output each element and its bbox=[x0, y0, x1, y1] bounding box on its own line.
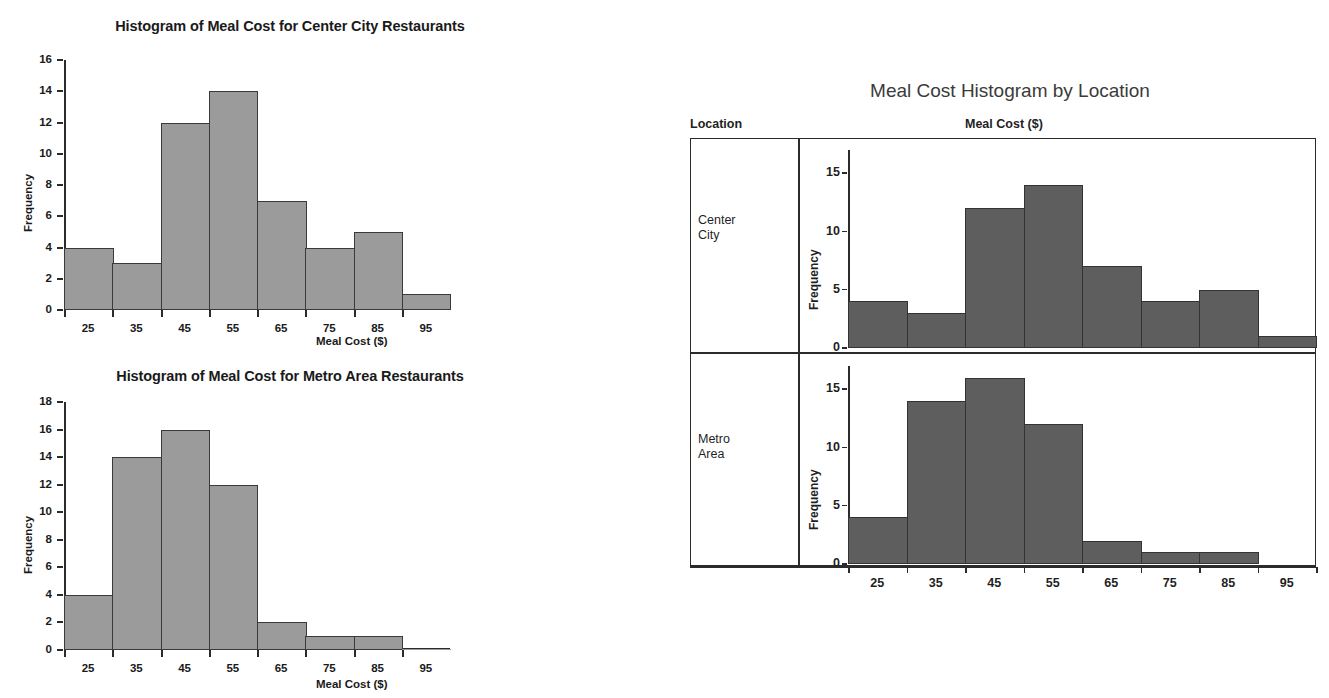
x-axis-tick bbox=[257, 650, 259, 657]
x-axis-tick bbox=[1024, 567, 1026, 573]
y-axis-tick-label: 0 bbox=[20, 643, 52, 655]
histogram-bar bbox=[209, 485, 259, 650]
histogram-bar bbox=[64, 248, 114, 311]
y-axis-tick bbox=[842, 563, 847, 565]
panel-plot-center-city bbox=[848, 150, 1316, 348]
chart-paneled-by-location: Meal Cost Histogram by Location Location… bbox=[690, 80, 1329, 610]
y-axis-tick-label: 0 bbox=[20, 303, 52, 315]
x-axis-tick bbox=[209, 650, 211, 657]
y-axis-tick-label: 4 bbox=[20, 588, 52, 600]
histogram-bar bbox=[354, 232, 404, 310]
x-axis-tick-label: 45 bbox=[974, 576, 1014, 590]
histogram-bar bbox=[161, 123, 211, 311]
x-axis-tick bbox=[161, 650, 163, 657]
y-axis-tick bbox=[842, 231, 847, 233]
x-axis-tick bbox=[402, 650, 404, 657]
y-axis-tick-label: 15 bbox=[810, 165, 840, 179]
x-axis-tick bbox=[354, 650, 356, 657]
x-axis-tick-label: 45 bbox=[165, 322, 205, 334]
plot-area bbox=[64, 402, 450, 650]
y-axis-tick bbox=[57, 456, 63, 458]
y-axis-tick bbox=[57, 401, 63, 403]
x-axis-tick-label: 95 bbox=[406, 662, 446, 674]
histogram-bar bbox=[1141, 301, 1201, 348]
histogram-bar bbox=[305, 248, 355, 311]
x-axis-tick-label: 95 bbox=[406, 322, 446, 334]
x-axis-tick-label: 75 bbox=[1150, 576, 1190, 590]
chart-center-city-simple: Histogram of Meal Cost for Center City R… bbox=[0, 10, 660, 355]
x-axis-tick bbox=[907, 567, 909, 573]
x-axis-tick bbox=[305, 310, 307, 317]
x-axis-tick bbox=[112, 650, 114, 657]
histogram-bar bbox=[1199, 290, 1259, 348]
x-axis-tick-label: 85 bbox=[358, 322, 398, 334]
y-axis-tick bbox=[57, 539, 63, 541]
histogram-bar bbox=[305, 636, 355, 650]
x-axis-tick bbox=[64, 310, 66, 317]
histogram-bar bbox=[1199, 552, 1259, 564]
y-axis-tick-label: 10 bbox=[810, 440, 840, 454]
x-axis-tick bbox=[1258, 567, 1260, 573]
x-axis-tick bbox=[112, 310, 114, 317]
histogram-bar bbox=[257, 201, 307, 310]
y-axis-tick bbox=[57, 511, 63, 513]
chart-metro-area-simple: Histogram of Meal Cost for Metro Area Re… bbox=[0, 360, 660, 698]
histogram-bar bbox=[907, 401, 967, 564]
y-axis-tick bbox=[842, 505, 847, 507]
y-axis-tick bbox=[57, 649, 63, 651]
y-axis-tick-label: 14 bbox=[20, 84, 52, 96]
y-axis-tick bbox=[57, 621, 63, 623]
histogram-bar bbox=[257, 622, 307, 650]
x-axis-tick bbox=[1316, 567, 1318, 573]
y-axis-tick bbox=[842, 172, 847, 174]
y-axis-tick bbox=[57, 484, 63, 486]
y-axis-tick-label: 2 bbox=[20, 615, 52, 627]
y-axis-tick-label: 16 bbox=[20, 423, 52, 435]
panel-row-label-center-city: Center City bbox=[698, 213, 736, 243]
y-axis-tick bbox=[842, 289, 847, 291]
y-axis-tick bbox=[57, 59, 63, 61]
histogram-bar bbox=[161, 430, 211, 650]
x-axis-line bbox=[690, 566, 1316, 568]
histogram-bar bbox=[907, 313, 967, 348]
x-axis-tick-label: 85 bbox=[1208, 576, 1248, 590]
y-axis-tick-label: 0 bbox=[810, 556, 840, 570]
histogram-bar bbox=[209, 91, 259, 310]
y-axis-tick-label: 16 bbox=[20, 53, 52, 65]
y-axis-tick-label: 10 bbox=[20, 147, 52, 159]
y-axis-tick bbox=[57, 90, 63, 92]
histogram-bar bbox=[402, 649, 452, 650]
x-axis-tick-label: 85 bbox=[358, 662, 398, 674]
panel-variable-label: Location bbox=[690, 117, 742, 131]
y-axis-tick-label: 5 bbox=[810, 498, 840, 512]
x-axis-tick-label: 65 bbox=[1091, 576, 1131, 590]
x-axis-tick bbox=[1082, 567, 1084, 573]
x-axis-title: Meal Cost ($) bbox=[316, 335, 388, 347]
x-axis-tick bbox=[1199, 567, 1201, 573]
y-axis-title: Frequency bbox=[22, 174, 34, 232]
x-axis-tick bbox=[965, 567, 967, 573]
y-axis-tick bbox=[57, 122, 63, 124]
x-axis-tick bbox=[848, 567, 850, 573]
x-axis-tick-label: 35 bbox=[916, 576, 956, 590]
x-axis-tick-label: 25 bbox=[857, 576, 897, 590]
y-axis-tick bbox=[842, 388, 847, 390]
y-axis-tick-label: 2 bbox=[20, 272, 52, 284]
x-axis-tick-label: 25 bbox=[68, 662, 108, 674]
x-axis-title: Meal Cost ($) bbox=[965, 117, 1043, 131]
histogram-bar bbox=[112, 263, 162, 310]
x-axis-title: Meal Cost ($) bbox=[316, 678, 388, 690]
chart-title: Meal Cost Histogram by Location bbox=[760, 80, 1260, 102]
x-axis-tick bbox=[64, 650, 66, 657]
x-axis-tick-label: 65 bbox=[261, 662, 301, 674]
y-axis-tick bbox=[57, 215, 63, 217]
histogram-bar bbox=[1258, 336, 1318, 348]
histogram-bar bbox=[354, 636, 404, 650]
histogram-bar bbox=[112, 457, 162, 650]
x-axis-tick-label: 55 bbox=[1033, 576, 1073, 590]
y-axis-tick-label: 0 bbox=[810, 340, 840, 354]
y-axis-tick-label: 10 bbox=[810, 224, 840, 238]
y-axis-tick-label: 4 bbox=[20, 241, 52, 253]
x-axis-tick-label: 45 bbox=[165, 662, 205, 674]
y-axis-tick-label: 14 bbox=[20, 450, 52, 462]
